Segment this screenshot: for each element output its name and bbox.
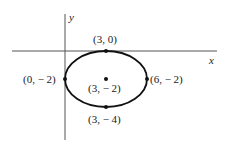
label-right: (6, − 2) [150, 73, 183, 86]
ellipse-diagram: x y (3, 0) (0, − 2) (3, − 2) (6, − 2) (3… [0, 0, 227, 147]
label-top: (3, 0) [93, 33, 117, 46]
point-right [145, 77, 149, 81]
diagram-canvas: x y (3, 0) (0, − 2) (3, − 2) (6, − 2) (3… [0, 0, 227, 147]
label-left: (0, − 2) [23, 73, 56, 86]
point-left [63, 77, 67, 81]
point-bottom [104, 105, 108, 109]
point-center [104, 77, 108, 81]
y-axis-label: y [68, 11, 74, 23]
x-axis-label: x [208, 54, 214, 66]
label-center: (3, − 2) [88, 82, 121, 95]
label-bottom: (3, − 4) [88, 113, 121, 126]
point-top [104, 49, 108, 53]
